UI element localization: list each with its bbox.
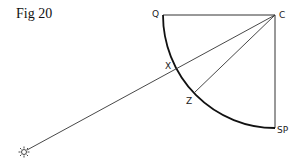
- line-sun-c: [27, 15, 275, 150]
- arc-q-sp: [163, 15, 275, 128]
- label-q: Q: [152, 9, 159, 19]
- label-sp: SP: [277, 125, 289, 135]
- line-c-z: [194, 15, 275, 93]
- label-z: Z: [186, 96, 192, 106]
- sun-icon: [19, 147, 30, 158]
- label-c: C: [279, 10, 285, 20]
- diagram: Q C X Z SP: [0, 0, 303, 166]
- label-x: X: [165, 61, 171, 71]
